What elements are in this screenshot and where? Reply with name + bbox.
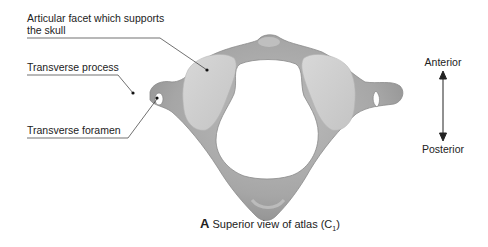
figure-letter: A: [200, 216, 209, 231]
marker-articular-facet: [205, 68, 208, 71]
orientation-arrow: [440, 71, 447, 141]
orientation-anterior: Anterior: [413, 56, 473, 68]
label-articular-facet: Articular facet which supports the skull: [27, 12, 167, 36]
figure-caption: ASuperior view of atlas (C1): [0, 216, 488, 232]
caption-text: Superior view of atlas (C: [212, 218, 332, 230]
leader-transverse-process: [27, 75, 133, 93]
orientation-posterior: Posterior: [413, 143, 473, 155]
anterior-tubercle: [258, 37, 280, 47]
marker-transverse-process: [131, 91, 134, 94]
label-transverse-foramen: Transverse foramen: [27, 124, 121, 136]
marker-transverse-foramen: [155, 96, 158, 99]
caption-close: ): [336, 218, 340, 230]
label-transverse-process: Transverse process: [27, 61, 119, 73]
